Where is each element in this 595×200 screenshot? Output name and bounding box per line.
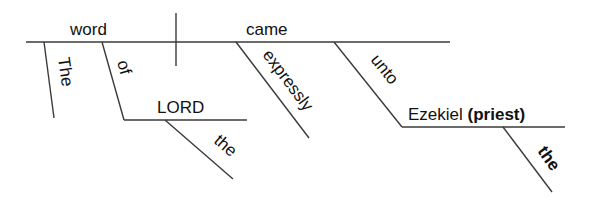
adverb-expressly: expressly [259,46,318,115]
preposition-unto: unto [367,51,403,89]
article-the: The [54,56,77,88]
priest-article-the: the [534,142,564,174]
predicate-word: came [246,20,288,39]
appositive-priest: (priest) [468,105,526,124]
prep-object-ezekiel-group: Ezekiel (priest) [408,105,525,124]
sentence-diagram: word came The of LORD the expressly unto… [0,0,595,200]
lord-article-the: the [210,131,240,161]
prep-object-ezekiel: Ezekiel [408,105,463,124]
article-the-slant-line [44,42,54,118]
prep-object-lord: LORD [157,98,204,117]
preposition-of: of [113,58,135,77]
subject-word: word [69,20,107,39]
preposition-of-slant-line [102,42,124,120]
